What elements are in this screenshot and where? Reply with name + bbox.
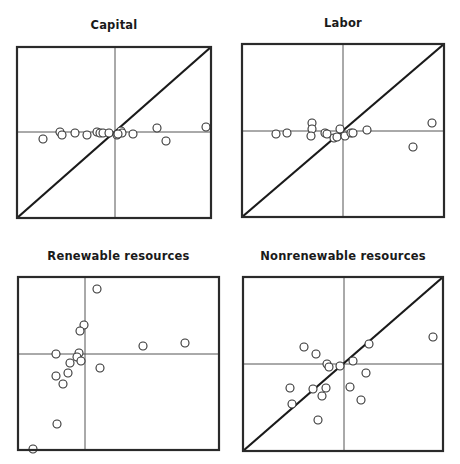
labor-point-4	[307, 132, 315, 140]
capital-point-0	[39, 135, 47, 143]
nonrenewable-point-9	[286, 384, 294, 392]
renewable-point-4	[52, 350, 60, 358]
labor-point-1	[283, 129, 291, 137]
renewable-point-14	[53, 420, 61, 428]
capital-point-4	[83, 131, 91, 139]
renewable-point-6	[77, 357, 85, 365]
nonrenewable-point-0	[300, 343, 308, 351]
renewable-point-11	[96, 364, 104, 372]
renewable-frame	[18, 277, 219, 450]
labor-point-13	[363, 126, 371, 134]
nonrenewable-point-16	[314, 416, 322, 424]
capital-point-8	[105, 129, 113, 137]
renewable-point-9	[52, 372, 60, 380]
nonrenewable-point-2	[365, 340, 373, 348]
renewable-point-13	[181, 339, 189, 347]
nonrenewable-point-7	[336, 362, 344, 370]
capital-point-13	[153, 124, 161, 132]
labor-point-9	[336, 125, 344, 133]
renewable-point-0	[93, 285, 101, 293]
capital-point-3	[71, 129, 79, 137]
nonrenewable-point-8	[362, 369, 370, 377]
renewable-point-7	[66, 359, 74, 367]
nonrenewable-point-3	[349, 357, 357, 365]
capital-point-15	[202, 123, 210, 131]
nonrenewable-point-15	[357, 396, 365, 404]
labor-point-15	[428, 119, 436, 127]
nonrenewable-point-10	[309, 385, 317, 393]
nonrenewable-point-4	[429, 333, 437, 341]
nonrenewable-point-12	[318, 392, 326, 400]
nonrenewable-point-13	[346, 383, 354, 391]
capital-point-2	[58, 131, 66, 139]
capital-point-12	[129, 130, 137, 138]
renewable-point-10	[59, 380, 67, 388]
labor-point-0	[272, 130, 280, 138]
capital-point-14	[162, 137, 170, 145]
capital-point-16	[114, 130, 122, 138]
renewable-point-8	[64, 369, 72, 377]
nonrenewable-point-14	[288, 400, 296, 408]
scatter-panels	[0, 0, 460, 464]
labor-point-14	[409, 143, 417, 151]
nonrenewable-point-6	[325, 363, 333, 371]
nonrenewable-point-11	[322, 384, 330, 392]
labor-point-12	[349, 129, 357, 137]
renewable-point-2	[76, 327, 84, 335]
labor-point-8	[333, 133, 341, 141]
nonrenewable-point-1	[312, 350, 320, 358]
renewable-point-12	[139, 342, 147, 350]
